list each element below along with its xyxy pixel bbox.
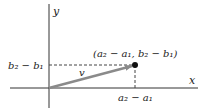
vector-arrow [49,66,132,88]
x-tick-label: a₂ − a₁ [118,92,153,103]
x-axis-label: x [189,74,196,87]
vector-diagram: y x v (a₂ − a₁, b₂ − b₁) b₂ − b₁ a₂ − a₁ [0,0,204,111]
diagram-svg: y x v (a₂ − a₁, b₂ − b₁) b₂ − b₁ a₂ − a₁ [0,0,204,111]
y-tick-label: b₂ − b₁ [8,60,44,71]
vector-label: v [79,67,85,78]
endpoint-dot [132,62,138,68]
y-axis-label: y [52,5,60,18]
point-label: (a₂ − a₁, b₂ − b₁) [93,48,177,59]
